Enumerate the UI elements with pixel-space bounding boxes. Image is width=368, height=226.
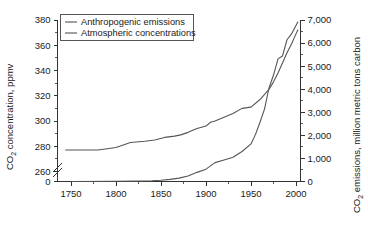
left-tick-label: 300: [35, 115, 51, 126]
left-tick-label: 340: [35, 65, 51, 76]
left-axis-ticks: [54, 20, 58, 182]
left-tick-label: 380: [35, 14, 51, 25]
chart-legend: Anthropogenic emissions Atmospheric conc…: [61, 15, 197, 41]
series-layer: [66, 22, 298, 181]
chart-container: 2602803003203403603800 01,0002,0003,0004…: [0, 0, 368, 226]
right-tick-label: 0: [308, 176, 313, 187]
right-tick-label: 5,000: [308, 61, 332, 72]
left-tick-label: 320: [35, 90, 51, 101]
axes-layer: [53, 20, 301, 182]
right-axis-title: CO2 emissions, million metric tons carbo…: [351, 37, 364, 213]
series-atmospheric-concentrations: [66, 30, 298, 150]
x-tick-label: 1750: [60, 188, 81, 199]
co2-emissions-concentration-chart: 2602803003203403603800 01,0002,0003,0004…: [0, 0, 368, 226]
left-tick-label: 360: [35, 40, 51, 51]
left-axis-title: CO2 concentration, ppmv: [4, 63, 17, 170]
x-axis-tick-labels: 175018001850190019502000: [60, 188, 306, 199]
left-tick-label-zero: 0: [45, 176, 50, 187]
right-tick-label: 6,000: [308, 37, 332, 48]
left-axis-tick-labels: 2602803003203403603800: [35, 14, 51, 187]
right-tick-label: 4,000: [308, 84, 332, 95]
right-tick-label: 1,000: [308, 153, 332, 164]
series-anthropogenic-emissions: [72, 22, 298, 181]
right-tick-label: 3,000: [308, 107, 332, 118]
x-tick-label: 1850: [150, 188, 171, 199]
legend-label-emissions: Anthropogenic emissions: [81, 17, 185, 27]
x-axis-ticks: [71, 182, 296, 186]
x-tick-label: 1900: [195, 188, 216, 199]
right-axis-tick-labels: 01,0002,0003,0004,0005,0006,0007,000: [308, 14, 332, 187]
right-tick-label: 2,000: [308, 130, 332, 141]
x-tick-label: 2000: [285, 188, 306, 199]
right-tick-label: 7,000: [308, 14, 332, 25]
right-axis-ticks: [301, 20, 305, 182]
x-tick-label: 1800: [105, 188, 126, 199]
legend-label-concentrations: Atmospheric concentrations: [81, 28, 196, 38]
left-tick-label: 280: [35, 141, 51, 152]
x-tick-label: 1950: [240, 188, 261, 199]
